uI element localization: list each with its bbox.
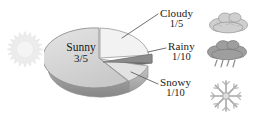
pie-label-rainy-fraction: 1/10 [168, 52, 195, 63]
snowflake-icon [209, 79, 243, 113]
rain-cloud-icon [204, 38, 250, 70]
pie-label-sunny-fraction: 3/5 [50, 53, 112, 65]
raindrops [215, 60, 235, 67]
pie-label-snowy-fraction: 1/10 [160, 88, 191, 99]
pie-label-snowy: Snowy 1/10 [160, 77, 191, 99]
pie-label-rainy: Rainy 1/10 [168, 41, 195, 63]
pie-label-cloudy: Cloudy 1/5 [160, 8, 193, 30]
pie-label-sunny: Sunny 3/5 [50, 41, 112, 65]
pie-chart-figure: Sunny 3/5 Cloudy 1/5 Rainy 1/10 Snowy 1/… [0, 0, 254, 117]
pie-label-cloudy-fraction: 1/5 [160, 19, 193, 30]
sun-icon [6, 30, 44, 68]
cloud-icon [206, 9, 250, 36]
